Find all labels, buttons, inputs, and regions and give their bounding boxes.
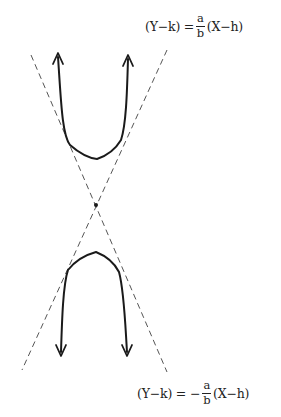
equation-lhs: (Y−k) =: [137, 386, 186, 401]
upper-branch: [58, 57, 128, 159]
asymptote-equation-positive: (Y−k) = a b (X−h): [145, 13, 243, 39]
center-point: [94, 203, 98, 207]
fraction-numerator: a: [202, 380, 211, 394]
equation-rhs: (X−h): [207, 19, 243, 34]
fraction-denominator: b: [197, 27, 204, 40]
fraction-numerator: a: [196, 13, 205, 27]
asymptote-positive-slope: [31, 55, 167, 372]
equation-lhs: (Y−k) =: [145, 19, 194, 34]
equation-rhs: (X−h): [213, 386, 249, 401]
fraction-a-over-b: a b: [202, 380, 211, 406]
hyperbola-diagram: [0, 0, 281, 417]
equation-sign: −: [190, 386, 200, 401]
asymptote-equation-negative: (Y−k) = − a b (X−h): [137, 380, 249, 406]
fraction-a-over-b: a b: [196, 13, 205, 39]
lower-branch: [61, 252, 127, 352]
fraction-denominator: b: [203, 394, 210, 407]
